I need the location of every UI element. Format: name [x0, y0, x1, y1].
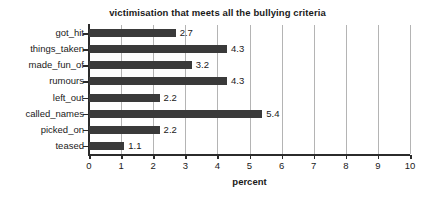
y-axis-tick	[83, 146, 89, 148]
x-axis-tick-label: 7	[311, 160, 316, 171]
category-label: left_out	[53, 93, 84, 103]
bar-value-label: 4.3	[231, 76, 244, 86]
bar-value-label: 3.2	[196, 60, 209, 70]
bar	[89, 110, 262, 118]
x-axis-tick	[250, 155, 252, 159]
gridline	[378, 25, 379, 154]
y-axis-tick	[83, 65, 89, 67]
gridline	[282, 25, 283, 154]
bar-chart: victimisation that meets all the bullyin…	[0, 0, 435, 197]
bar-value-label: 5.4	[266, 109, 279, 119]
chart-title: victimisation that meets all the bullyin…	[0, 7, 435, 18]
x-axis-tick-label: 6	[279, 160, 284, 171]
bar	[89, 126, 160, 134]
y-axis-tick	[83, 81, 89, 83]
x-axis-tick-label: 9	[375, 160, 380, 171]
x-axis-tick-label: 2	[151, 160, 156, 171]
x-axis-tick	[217, 155, 219, 159]
category-label: called_names	[25, 109, 84, 119]
y-axis-tick	[83, 33, 89, 35]
bar	[89, 61, 192, 69]
x-axis-tick-label: 3	[183, 160, 188, 171]
bar-value-label: 2.7	[180, 28, 193, 38]
y-axis-tick	[83, 98, 89, 100]
gridline	[346, 25, 347, 154]
x-axis-tick-label: 5	[247, 160, 252, 171]
x-axis-tick	[378, 155, 380, 159]
y-axis-tick	[83, 114, 89, 116]
gridline	[410, 25, 411, 154]
bar	[89, 142, 124, 150]
bar-value-label: 2.2	[164, 125, 177, 135]
category-axis-labels: got_hitthings_takenmade_fun_ofrumourslef…	[0, 25, 84, 154]
bar	[89, 77, 227, 85]
category-label: things_taken	[30, 44, 84, 54]
gridline	[314, 25, 315, 154]
category-label: teased	[55, 141, 84, 151]
x-axis-tick	[153, 155, 155, 159]
bar	[89, 94, 160, 102]
bar-value-label: 1.1	[128, 141, 141, 151]
category-label: made_fun_of	[29, 60, 84, 70]
category-label: rumours	[49, 76, 84, 86]
x-axis-tick	[346, 155, 348, 159]
x-axis-tick-label: 8	[343, 160, 348, 171]
plot-area: 2.74.33.24.32.25.42.21.1	[89, 25, 410, 154]
x-axis-tick-label: 4	[215, 160, 220, 171]
gridline	[250, 25, 251, 154]
category-label: picked_on	[41, 125, 84, 135]
category-label: got_hit	[55, 28, 84, 38]
x-axis-tick-label: 1	[118, 160, 123, 171]
bar-value-label: 2.2	[164, 93, 177, 103]
x-axis-tick	[282, 155, 284, 159]
bar-value-label: 4.3	[231, 44, 244, 54]
x-axis-tick	[410, 155, 412, 159]
x-axis-tick-label: 10	[405, 160, 416, 171]
x-axis-tick	[89, 155, 91, 159]
x-axis-title: percent	[89, 176, 410, 187]
y-axis-tick	[83, 130, 89, 132]
x-axis-tick	[185, 155, 187, 159]
y-axis-tick	[83, 49, 89, 51]
x-axis-tick	[314, 155, 316, 159]
bar	[89, 45, 227, 53]
x-axis-tick	[121, 155, 123, 159]
x-axis-tick-label: 0	[86, 160, 91, 171]
bar	[89, 29, 176, 37]
